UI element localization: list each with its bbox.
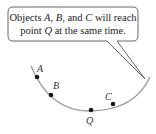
- circular-track-arc: [31, 66, 150, 111]
- point-c-label: C: [105, 91, 112, 102]
- point-b: [49, 93, 54, 98]
- point-b-label: B: [53, 80, 59, 91]
- point-a: [35, 75, 40, 80]
- diagram-canvas: Objects A, B, and C will reach point Q a…: [0, 0, 156, 134]
- callout-line-1: Objects A, B, and C will reach: [9, 12, 137, 23]
- point-q-label: Q: [86, 115, 94, 126]
- callout-line-2: point Q at the same time.: [20, 25, 126, 36]
- point-a-label: A: [36, 63, 44, 74]
- point-c: [111, 102, 116, 107]
- point-q: [89, 108, 94, 113]
